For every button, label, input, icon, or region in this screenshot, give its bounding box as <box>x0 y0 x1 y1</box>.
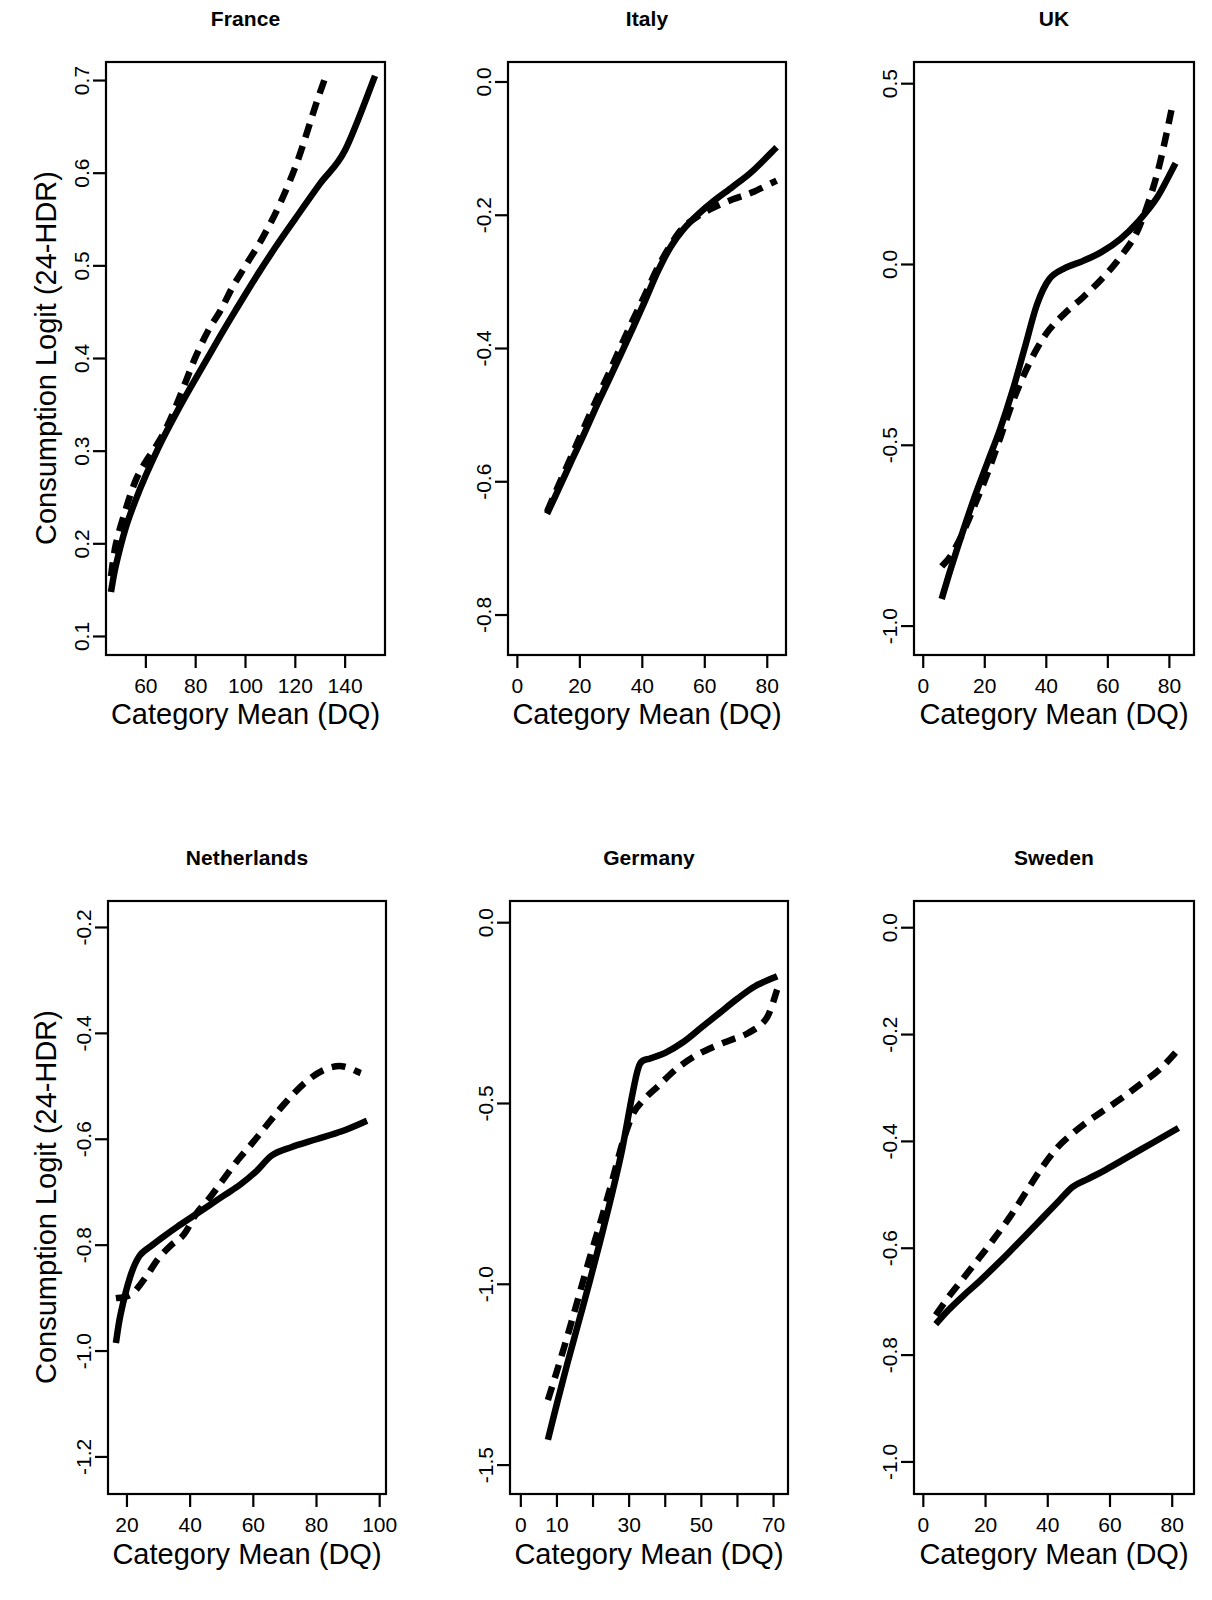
x-tick-label: 40 <box>1036 1513 1059 1536</box>
y-tick-label: 0.0 <box>878 913 901 942</box>
figure-panel-grid: FranceCategory Mean (DQ)Consumption Logi… <box>0 0 1212 1600</box>
series-line-dashed <box>936 1050 1179 1316</box>
y-tick-label: -0.8 <box>878 1337 901 1373</box>
plot-box <box>914 901 1194 1494</box>
x-tick-label: 60 <box>1098 1513 1121 1536</box>
plot-area-sweden: 020406080-1.0-0.8-0.6-0.4-0.20.0 <box>0 0 1212 1600</box>
x-tick-label: 80 <box>1161 1513 1184 1536</box>
y-tick-label: -0.4 <box>878 1123 901 1160</box>
panel-sweden: SwedenCategory Mean (DQ)020406080-1.0-0.… <box>0 0 1212 1600</box>
y-tick-label: -1.0 <box>878 1444 901 1480</box>
x-tick-label: 20 <box>974 1513 997 1536</box>
y-tick-label: -0.2 <box>878 1016 901 1052</box>
series-line-solid <box>936 1128 1179 1324</box>
y-tick-label: -0.6 <box>878 1230 901 1266</box>
x-tick-label: 0 <box>917 1513 929 1536</box>
